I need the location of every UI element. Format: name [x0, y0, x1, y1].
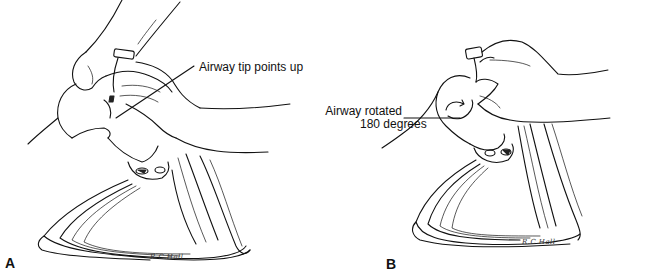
neck-left — [28, 118, 58, 144]
rotation-arrow-icon — [446, 100, 464, 110]
hair-strand — [172, 170, 196, 244]
hair-strand — [544, 124, 580, 240]
artist-signature-a: R.C.Hall — [150, 253, 184, 261]
hair-strand — [552, 124, 582, 216]
callout-label-b-line2: 180 degrees — [360, 117, 427, 131]
hair-strand — [84, 188, 190, 254]
panel-b: Airway rotated 180 degrees R.C.Hall B — [330, 0, 658, 272]
callout-label-b-line1: Airway rotated — [348, 104, 402, 118]
callout-text-b-line1: Airway rotated — [325, 104, 402, 118]
head-back — [470, 134, 505, 150]
arm-left-line — [86, 0, 122, 52]
panel-a: Airway tip points up R.C.Hall A — [0, 0, 330, 272]
callout-label-a: Airway tip points up — [199, 60, 303, 74]
top-hand-outline — [73, 52, 107, 90]
face-profile — [436, 76, 470, 144]
airway-flange — [114, 49, 135, 60]
panel-letter-b: B — [386, 256, 396, 272]
forehead-line — [176, 138, 268, 153]
face-profile — [58, 84, 76, 138]
panel-a-illustration — [0, 0, 330, 272]
chin-jaw — [72, 128, 110, 138]
panel-letter-a: A — [5, 255, 15, 271]
hair-strand — [200, 156, 250, 253]
right-hand-forearm — [200, 104, 290, 109]
nostril-shade — [138, 170, 146, 173]
hand-lower — [478, 104, 610, 122]
hair-strand — [518, 126, 540, 228]
arm-inner-line — [138, 20, 156, 44]
head-back — [108, 138, 158, 162]
hair-strand — [428, 164, 520, 240]
airway-tube — [113, 58, 118, 92]
right-hand-finger-2 — [120, 95, 158, 102]
nostril-left — [485, 150, 495, 156]
panel-b-illustration — [330, 0, 658, 272]
airway-tube — [474, 58, 477, 82]
callout-leader-a — [116, 66, 194, 118]
hand-top — [482, 40, 608, 74]
hand-finger-1 — [490, 60, 530, 66]
hand-fist — [476, 79, 498, 104]
hair-strand — [72, 186, 180, 256]
arm-right-line — [136, 2, 180, 56]
right-hand-finger-1 — [122, 85, 160, 92]
mouth-shadow — [109, 96, 114, 102]
hair-strand — [440, 166, 530, 238]
top-hand-knuckles — [106, 72, 172, 93]
hair-strand — [60, 184, 246, 259]
airway-flange — [465, 47, 482, 60]
hand-thumb — [480, 57, 494, 62]
top-hand-finger — [88, 66, 93, 84]
hand-finger-2 — [480, 96, 500, 108]
right-hand-lower — [126, 104, 176, 138]
nostril-right — [155, 167, 165, 173]
artist-signature-b: R.C.Hall — [522, 238, 556, 246]
cheek — [104, 100, 111, 118]
hair-strand — [452, 168, 540, 236]
